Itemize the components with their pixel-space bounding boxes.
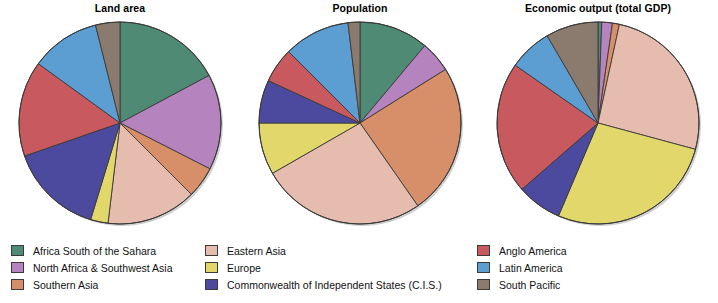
legend-label-anglo_america: Anglo America [499,245,567,257]
chart-title-land-area: Land area [0,2,240,14]
legend-item-cis: Commonwealth of Independent States (C.I.… [205,276,470,293]
legend-swatch-latin_america [477,262,490,273]
legend-item-eastern_asia: Eastern Asia [205,242,470,259]
legend-swatch-north_africa_sw_asia [11,262,24,273]
legend-column-3: Anglo AmericaLatin AmericaSouth Pacific [477,242,707,293]
legend-label-africa_south_sahara: Africa South of the Sahara [33,245,156,257]
legend-swatch-southern_asia [11,279,24,290]
legend-label-eastern_asia: Eastern Asia [227,245,286,257]
legend-item-south_pacific: South Pacific [477,276,707,293]
legend-swatch-anglo_america [477,245,490,256]
legend-swatch-south_pacific [477,279,490,290]
chart-land-area: Land area [0,0,240,240]
legend-item-africa_south_sahara: Africa South of the Sahara [11,242,211,259]
legend-column-2: Eastern AsiaEuropeCommonwealth of Indepe… [205,242,470,293]
pie-svg-land-area [0,16,240,238]
legend-swatch-eastern_asia [205,245,218,256]
legend-column-1: Africa South of the SaharaNorth Africa &… [11,242,211,293]
legend-item-europe: Europe [205,259,470,276]
legend-item-latin_america: Latin America [477,259,707,276]
charts-row: Land area Population Economic output (to… [0,0,718,240]
legend-item-southern_asia: Southern Asia [11,276,211,293]
legend-label-latin_america: Latin America [499,262,563,274]
legend-item-anglo_america: Anglo America [477,242,707,259]
legend-swatch-cis [205,279,218,290]
chart-title-population: Population [240,2,480,14]
legend: Africa South of the SaharaNorth Africa &… [0,242,718,303]
legend-label-cis: Commonwealth of Independent States (C.I.… [227,279,442,291]
legend-swatch-africa_south_sahara [11,245,24,256]
pie-wrap-economic-output [478,16,718,238]
pie-wrap-land-area [0,16,240,238]
chart-economic-output: Economic output (total GDP) [478,0,718,240]
legend-label-south_pacific: South Pacific [499,279,560,291]
legend-item-north_africa_sw_asia: North Africa & Southwest Asia [11,259,211,276]
pie-chart-figure: Land area Population Economic output (to… [0,0,718,303]
legend-label-southern_asia: Southern Asia [33,279,98,291]
pie-wrap-population [240,16,480,238]
pie-svg-economic-output [478,16,718,238]
chart-population: Population [240,0,480,240]
legend-swatch-europe [205,262,218,273]
legend-label-europe: Europe [227,262,261,274]
pie-svg-population [240,16,480,238]
chart-title-economic-output: Economic output (total GDP) [478,2,718,14]
legend-label-north_africa_sw_asia: North Africa & Southwest Asia [33,262,172,274]
